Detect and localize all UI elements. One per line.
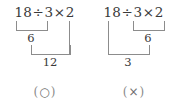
verdict-close-paren: ) — [51, 85, 56, 99]
operand-18: 18 — [14, 4, 32, 20]
step2-result-incorrect: 3 — [108, 55, 148, 69]
operand-2: 2 — [66, 4, 75, 20]
verdict-correct: (○) — [0, 85, 89, 99]
circle-icon: ○ — [38, 85, 50, 99]
step2-result-correct: 12 — [31, 55, 69, 69]
operand-18: 18 — [103, 4, 121, 20]
panel-correct: 18÷3×2 6 12 (○) — [0, 0, 89, 105]
operand-3: 3 — [45, 4, 54, 20]
bracket-step2-incorrect — [108, 45, 150, 55]
bracket-step2-correct — [31, 45, 71, 55]
cross-icon: × — [127, 85, 139, 99]
operand-3: 3 — [134, 4, 143, 20]
step1-result-correct: 6 — [16, 31, 46, 45]
operand-2: 2 — [155, 4, 164, 20]
divide-operator: ÷ — [32, 4, 45, 20]
multiply-operator: × — [53, 4, 66, 20]
step1-result-incorrect: 6 — [133, 31, 163, 45]
bracket-step1-correct — [16, 21, 48, 31]
panel-incorrect: 18÷3×2 6 3 (×) — [89, 0, 178, 105]
verdict-incorrect: (×) — [89, 85, 178, 99]
figure-canvas: 18÷3×2 6 12 (○) 18÷3×2 6 3 (×) — [0, 0, 178, 105]
divide-operator: ÷ — [121, 4, 134, 20]
expression-incorrect: 18÷3×2 — [89, 4, 178, 20]
multiply-operator: × — [142, 4, 155, 20]
bracket-step1-incorrect — [133, 21, 165, 31]
verdict-close-paren: ) — [140, 85, 145, 99]
expression-correct: 18÷3×2 — [0, 4, 89, 20]
